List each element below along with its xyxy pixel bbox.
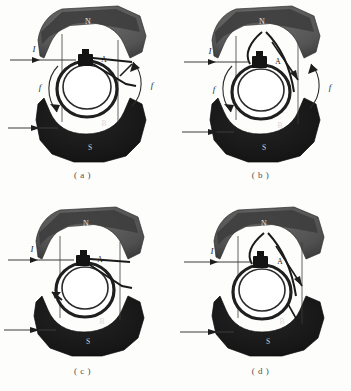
- coil-side-b-label: B: [279, 317, 284, 326]
- panel-c-diagram: N B S A I: [0, 196, 175, 368]
- north-pole-label: N: [259, 17, 265, 26]
- south-pole-label: S: [86, 337, 90, 346]
- current-label-upper: I: [32, 44, 37, 54]
- commutator-neck: [257, 251, 264, 257]
- current-arrow-upper-icon: [32, 57, 40, 63]
- force-label-left: f: [39, 82, 43, 92]
- coil-side-b-label: B: [277, 121, 282, 130]
- armature-coil-inner: [238, 69, 284, 111]
- force-label-right: f: [329, 82, 333, 92]
- commutator-neck: [80, 250, 87, 256]
- force-label-left: f: [213, 84, 217, 94]
- current-label-upper: I: [208, 46, 213, 56]
- panel-b-diagram: N B S A I f f: [176, 0, 351, 172]
- panel-c-caption: ( c ): [0, 366, 175, 376]
- brush-lead-arrow-icon: [294, 276, 302, 286]
- coil-side-a-label: A: [277, 257, 283, 266]
- coil-side-b-label: B: [99, 317, 104, 326]
- panel-d-caption: ( d ): [176, 366, 351, 376]
- commutator-block: [253, 256, 268, 268]
- brush-lead-upper: [90, 259, 130, 262]
- south-pole-label: S: [262, 143, 266, 152]
- figure-panel-d: N B S A I ( d ): [176, 196, 351, 391]
- current-arrow-upper-icon: [30, 257, 38, 263]
- figure-panel-b: N B S A I f f: [176, 0, 351, 195]
- figure-panel-a: N B S A I: [0, 0, 175, 195]
- brush-lead-upper: [93, 58, 132, 62]
- north-pole-label: N: [83, 219, 89, 228]
- panel-d-diagram: N B S A I: [176, 196, 351, 368]
- force-label-right: f: [151, 80, 155, 90]
- south-pole-label: S: [266, 337, 270, 346]
- commutator-neck: [82, 49, 89, 55]
- panel-a-caption: ( a ): [0, 170, 175, 180]
- panel-a-diagram: N B S A I: [0, 0, 175, 172]
- coil-side-b-label: B: [101, 119, 106, 128]
- current-label-upper: I: [30, 244, 35, 254]
- figure-panel-c: N B S A I ( c ): [0, 196, 175, 391]
- coil-side-a-label: A: [275, 57, 281, 66]
- commutator-block: [76, 255, 90, 266]
- force-arrow-left-icon: [224, 104, 234, 112]
- north-pole-label: N: [85, 17, 91, 26]
- current-label-upper: I: [210, 246, 215, 256]
- figure-sheet: N B S A I: [0, 0, 351, 391]
- current-arrow-upper-icon: [208, 59, 216, 65]
- south-pole-label: S: [88, 143, 92, 152]
- current-arrow-upper-icon: [210, 259, 218, 265]
- brush-lead-lower-return: [288, 304, 298, 322]
- panel-b-caption: ( b ): [176, 170, 351, 180]
- force-direction-stroke-right: [120, 64, 132, 76]
- commutator-neck: [256, 51, 263, 57]
- commutator-block: [78, 54, 93, 66]
- north-pole-label: N: [261, 219, 267, 228]
- armature-coil-inner: [239, 269, 285, 311]
- force-arrow-left-icon: [50, 104, 60, 112]
- commutator-block: [252, 56, 267, 68]
